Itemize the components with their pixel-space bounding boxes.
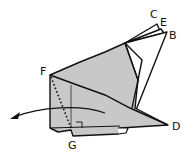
- label-g: G: [68, 139, 77, 152]
- label-d: D: [172, 120, 180, 133]
- origami-fold-diagram: C E B F D G: [0, 0, 193, 157]
- label-f: F: [40, 65, 46, 78]
- arrow-head-icon: [10, 112, 20, 119]
- bottom-flap: [118, 128, 128, 134]
- label-e: E: [160, 16, 167, 29]
- label-c: C: [150, 8, 158, 21]
- label-b: B: [169, 29, 177, 42]
